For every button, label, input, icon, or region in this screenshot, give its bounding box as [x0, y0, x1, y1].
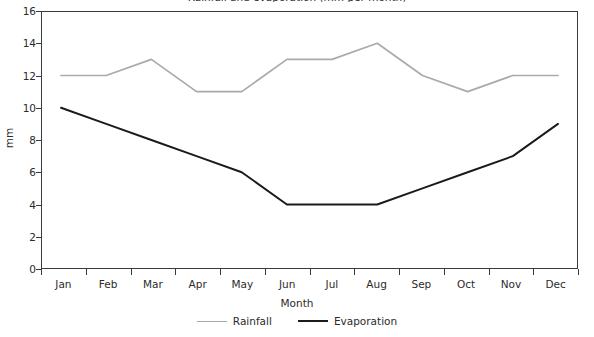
- x-tick-mark: [578, 269, 579, 275]
- x-tick-label: May: [217, 278, 267, 290]
- y-tick-mark: [36, 108, 41, 109]
- plot-series-layer: [41, 11, 578, 269]
- x-axis-title: Month: [0, 297, 594, 309]
- x-tick-mark: [131, 269, 132, 275]
- series-line-rainfall: [61, 43, 558, 91]
- y-tick-label: 16: [10, 6, 36, 16]
- x-tick-mark: [399, 269, 400, 275]
- legend-item-rainfall[interactable]: Rainfall: [197, 315, 272, 327]
- x-tick-mark: [265, 269, 266, 275]
- x-tick-label: Jul: [307, 278, 357, 290]
- y-tick-label: 12: [10, 71, 36, 81]
- y-tick-label: 2: [10, 232, 36, 242]
- series-line-evaporation: [61, 108, 558, 205]
- y-tick-label: 6: [10, 167, 36, 177]
- y-tick-mark: [36, 140, 41, 141]
- x-tick-label: Sep: [396, 278, 446, 290]
- y-axis: 0246810121416: [4, 0, 36, 337]
- x-tick-mark: [41, 269, 42, 275]
- x-tick-label: Feb: [83, 278, 133, 290]
- y-tick-mark: [36, 76, 41, 77]
- x-tick-mark: [444, 269, 445, 275]
- x-tick-label: Mar: [128, 278, 178, 290]
- line-chart: Rainfall and evaporation (mm per month) …: [0, 0, 594, 337]
- y-tick-mark: [36, 172, 41, 173]
- x-tick-label: Oct: [441, 278, 491, 290]
- x-tick-label: Aug: [352, 278, 402, 290]
- y-tick-mark: [36, 269, 41, 270]
- x-tick-mark: [489, 269, 490, 275]
- y-axis-title: mm: [3, 118, 15, 158]
- x-tick-mark: [354, 269, 355, 275]
- y-tick-label: 14: [10, 38, 36, 48]
- x-tick-mark: [86, 269, 87, 275]
- chart-legend: RainfallEvaporation: [0, 315, 594, 327]
- y-tick-label: 0: [10, 264, 36, 274]
- y-tick-mark: [36, 237, 41, 238]
- y-tick-label: 10: [10, 103, 36, 113]
- x-tick-label: Dec: [531, 278, 581, 290]
- x-tick-mark: [533, 269, 534, 275]
- x-tick-mark: [175, 269, 176, 275]
- x-tick-label: Apr: [173, 278, 223, 290]
- y-tick-mark: [36, 205, 41, 206]
- chart-title: Rainfall and evaporation (mm per month): [0, 0, 594, 2]
- legend-label: Evaporation: [334, 315, 397, 327]
- x-tick-label: Jun: [262, 278, 312, 290]
- legend-item-evaporation[interactable]: Evaporation: [298, 315, 397, 327]
- x-tick-mark: [220, 269, 221, 275]
- x-tick-mark: [310, 269, 311, 275]
- y-tick-mark: [36, 43, 41, 44]
- y-tick-label: 4: [10, 200, 36, 210]
- legend-swatch-icon: [197, 321, 227, 322]
- x-tick-label: Nov: [486, 278, 536, 290]
- y-tick-mark: [36, 11, 41, 12]
- legend-label: Rainfall: [233, 315, 272, 327]
- legend-swatch-icon: [298, 320, 328, 322]
- x-tick-label: Jan: [38, 278, 88, 290]
